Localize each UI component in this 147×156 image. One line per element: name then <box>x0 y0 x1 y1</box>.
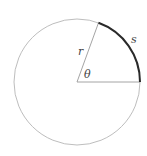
arc-length-diagram: r θ s <box>0 0 147 156</box>
angle-label: θ <box>84 68 91 81</box>
arc-s <box>99 23 141 82</box>
radius-label: r <box>78 45 84 58</box>
arc-label: s <box>131 33 137 46</box>
